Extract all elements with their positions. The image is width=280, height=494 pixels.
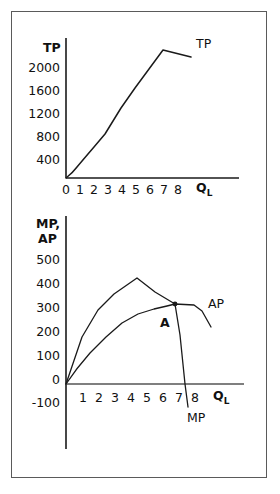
mp-ap-ytick-500: 500 <box>16 254 60 267</box>
mp-ap-ytick-400: 400 <box>16 278 60 291</box>
mp-ap-ytick-100: 100 <box>16 350 60 363</box>
mp-ap-ytick-200: 200 <box>16 326 60 339</box>
mp-ap-y-axis-title-line1: MP, <box>36 218 60 231</box>
mp-curve <box>66 278 188 407</box>
mp-ap-x-axis-title-sub: L <box>224 396 230 406</box>
intersection-point-a-marker <box>173 302 178 307</box>
mp-ap-xtick-1: 1 <box>75 392 91 405</box>
mp-ap-xtick-4: 4 <box>123 392 139 405</box>
figure-page: TP 2000 1600 1200 800 400 0 1 2 3 4 5 6 … <box>0 0 280 494</box>
mp-ap-xtick-3: 3 <box>107 392 123 405</box>
mp-ap-xtick-7: 7 <box>171 392 187 405</box>
mp-ap-ytick-minus-100: -100 <box>16 397 60 410</box>
mp-ap-xtick-5: 5 <box>139 392 155 405</box>
mp-ap-xtick-6: 6 <box>155 392 171 405</box>
mp-curve-label: MP <box>187 412 205 425</box>
mp-ap-ytick-300: 300 <box>16 302 60 315</box>
intersection-point-a-label: A <box>160 317 170 330</box>
mp-ap-ytick-0: 0 <box>16 374 60 387</box>
figure-border: TP 2000 1600 1200 800 400 0 1 2 3 4 5 6 … <box>11 11 267 478</box>
mp-ap-x-axis-title: QL <box>213 390 229 406</box>
ap-curve <box>66 304 211 384</box>
ap-curve-label: AP <box>208 298 224 311</box>
mp-ap-xtick-2: 2 <box>91 392 107 405</box>
mp-ap-x-axis-title-base: Q <box>213 388 224 403</box>
mp-ap-xtick-8: 8 <box>187 392 203 405</box>
mp-ap-y-axis-title-line2: AP <box>38 233 57 246</box>
